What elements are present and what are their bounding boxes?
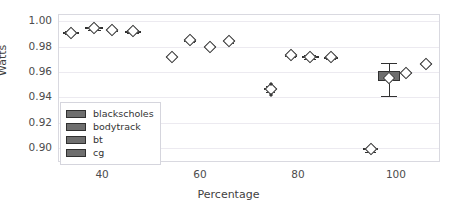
y-tick-label: 0.98 [6, 40, 52, 52]
legend: blackscholes bodytrack bt cg [60, 102, 161, 165]
legend-item-label: cg [93, 148, 104, 158]
whisker-cap [381, 63, 397, 64]
gridline [59, 97, 439, 98]
legend-item-label: blackscholes [93, 109, 154, 119]
median-marker [106, 24, 119, 37]
median-marker [127, 25, 140, 38]
legend-swatch-icon [66, 136, 86, 144]
median-marker [285, 49, 298, 62]
median-marker [304, 50, 317, 63]
gridline [59, 21, 439, 22]
x-tick-label: 80 [291, 168, 304, 180]
median-marker [184, 34, 197, 47]
legend-swatch-icon [66, 123, 86, 131]
legend-item[interactable]: bt [66, 134, 154, 146]
median-marker [419, 57, 432, 70]
legend-swatch-icon [66, 149, 86, 157]
x-tick-label: 100 [386, 168, 406, 180]
median-marker [364, 143, 377, 156]
median-marker [88, 22, 101, 35]
x-axis-label: Percentage [0, 188, 457, 201]
legend-item-label: bt [93, 135, 103, 145]
legend-item[interactable]: bodytrack [66, 121, 154, 133]
median-marker [223, 35, 236, 48]
y-axis-label: Watts [0, 45, 9, 76]
y-tick-label: 0.90 [6, 141, 52, 153]
median-marker [204, 40, 217, 53]
y-tick-label: 0.92 [6, 116, 52, 128]
x-tick-label: 40 [95, 168, 108, 180]
median-marker [64, 26, 77, 39]
y-tick-label: 0.94 [6, 90, 52, 102]
median-marker [165, 50, 178, 63]
boxplot-figure: Watts Percentage 0.900.920.940.960.981.0… [0, 0, 457, 210]
x-tick-label: 60 [193, 168, 206, 180]
median-marker [400, 67, 413, 80]
legend-item[interactable]: blackscholes [66, 108, 154, 120]
whisker-cap [381, 96, 397, 97]
median-marker [325, 51, 338, 64]
y-tick-label: 0.96 [6, 65, 52, 77]
gridline [59, 47, 439, 48]
legend-swatch-icon [66, 110, 86, 118]
legend-item-label: bodytrack [93, 122, 141, 132]
y-tick-label: 1.00 [6, 14, 52, 26]
legend-item[interactable]: cg [66, 147, 154, 159]
